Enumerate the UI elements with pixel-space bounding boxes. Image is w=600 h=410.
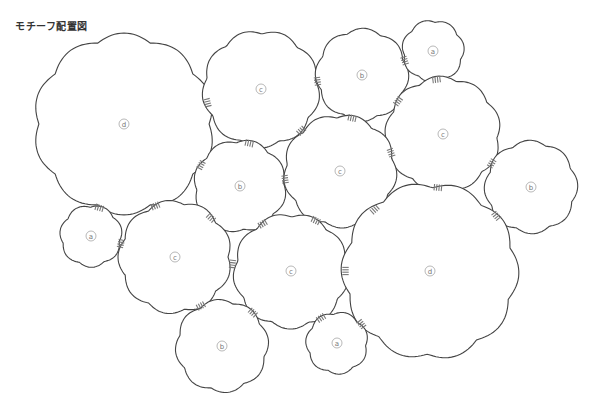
svg-text:b: b bbox=[360, 72, 365, 80]
motif-label: b bbox=[217, 341, 227, 351]
motif-label: a bbox=[332, 338, 342, 348]
motif-label: b bbox=[357, 70, 367, 80]
svg-text:c: c bbox=[259, 86, 263, 94]
svg-text:b: b bbox=[220, 343, 225, 351]
motif-label: c bbox=[286, 266, 296, 276]
motif-label: b bbox=[235, 181, 245, 191]
motif-label: c bbox=[438, 129, 448, 139]
motif-label: c bbox=[170, 252, 180, 262]
motif-layout-diagram: dcbacbcbaccdba bbox=[0, 0, 600, 410]
motif-label: b bbox=[526, 182, 536, 192]
svg-text:b: b bbox=[238, 183, 243, 191]
motif-label: c bbox=[335, 166, 345, 176]
svg-text:c: c bbox=[173, 254, 177, 262]
motif-label: a bbox=[428, 46, 438, 56]
svg-text:a: a bbox=[335, 340, 339, 348]
svg-text:d: d bbox=[122, 121, 126, 129]
svg-text:c: c bbox=[441, 131, 445, 139]
svg-text:c: c bbox=[289, 268, 293, 276]
svg-text:d: d bbox=[428, 268, 432, 276]
svg-text:c: c bbox=[338, 168, 342, 176]
motif-label: d bbox=[119, 119, 129, 129]
motif-label: c bbox=[256, 84, 266, 94]
svg-text:a: a bbox=[89, 233, 93, 241]
motif-label: d bbox=[425, 266, 435, 276]
motifs-layer bbox=[36, 21, 578, 393]
svg-text:a: a bbox=[431, 48, 435, 56]
motif-label: a bbox=[86, 231, 96, 241]
svg-text:b: b bbox=[529, 184, 534, 192]
